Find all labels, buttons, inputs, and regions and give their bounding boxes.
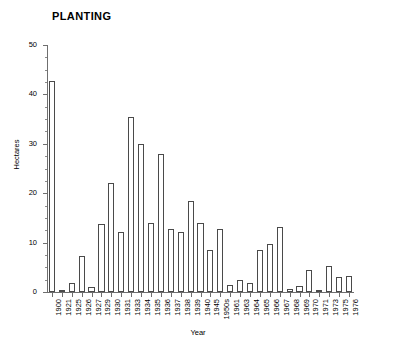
x-tick-1950s bbox=[220, 293, 221, 297]
y-minor-tick bbox=[45, 169, 47, 170]
x-tick-label-1940: 1940 bbox=[204, 299, 212, 316]
x-tick-label-1963: 1963 bbox=[243, 299, 251, 316]
x-tick-1937 bbox=[171, 293, 172, 297]
x-tick-1935 bbox=[151, 293, 152, 297]
x-tick-1970 bbox=[309, 293, 310, 297]
y-axis-label: Hectares bbox=[12, 125, 21, 185]
x-tick-label-1938: 1938 bbox=[184, 299, 192, 316]
bar-1967 bbox=[277, 227, 283, 292]
x-axis-label: Year bbox=[0, 328, 396, 337]
bar-1934 bbox=[138, 144, 144, 292]
bar-1961 bbox=[227, 285, 233, 292]
bar-1970 bbox=[306, 270, 312, 292]
bar-1938 bbox=[178, 232, 184, 292]
x-tick-1964 bbox=[250, 293, 251, 297]
bar-1930 bbox=[108, 183, 114, 292]
bar-1964 bbox=[247, 283, 253, 292]
y-minor-tick bbox=[45, 206, 47, 207]
x-tick-label-1968: 1968 bbox=[293, 299, 301, 316]
bar-1966 bbox=[267, 244, 273, 292]
x-tick-1936 bbox=[161, 293, 162, 297]
x-tick-label-1925: 1925 bbox=[75, 299, 83, 316]
x-tick-label-1964: 1964 bbox=[253, 299, 261, 316]
x-tick-label-1967: 1967 bbox=[283, 299, 291, 316]
y-tick-label-30: 30 bbox=[29, 140, 37, 148]
bar-1940 bbox=[197, 223, 203, 292]
x-tick-1976 bbox=[349, 293, 350, 297]
y-minor-tick bbox=[45, 156, 47, 157]
bar-1925 bbox=[69, 283, 75, 292]
x-tick-label-1970: 1970 bbox=[312, 299, 320, 316]
x-tick-label-1939: 1939 bbox=[194, 299, 202, 316]
y-minor-tick bbox=[45, 70, 47, 71]
bar-1971 bbox=[316, 290, 322, 292]
y-tick-0: 0 bbox=[43, 292, 47, 293]
bar-1976 bbox=[346, 276, 352, 292]
x-tick-label-1935: 1935 bbox=[154, 299, 162, 316]
bar-1975 bbox=[336, 277, 342, 292]
x-tick-1963 bbox=[240, 293, 241, 297]
y-tick-50: 50 bbox=[43, 45, 47, 46]
plot-area: 01020304050 1900192119251926192719291930… bbox=[47, 45, 354, 292]
x-tick-label-1969: 1969 bbox=[303, 299, 311, 316]
x-tick-1969 bbox=[300, 293, 301, 297]
bar-1900 bbox=[49, 81, 55, 292]
x-tick-label-1926: 1926 bbox=[85, 299, 93, 316]
x-tick-label-1966: 1966 bbox=[273, 299, 281, 316]
bar-1926 bbox=[79, 256, 85, 292]
x-tick-1925 bbox=[72, 293, 73, 297]
x-tick-label-1927: 1927 bbox=[95, 299, 103, 316]
bar-1968 bbox=[287, 289, 293, 292]
y-tick-label-0: 0 bbox=[33, 288, 37, 296]
bar-1933 bbox=[128, 117, 134, 292]
x-tick-1934 bbox=[141, 293, 142, 297]
y-minor-tick bbox=[45, 119, 47, 120]
x-tick-1929 bbox=[101, 293, 102, 297]
bar-1950s bbox=[217, 229, 223, 292]
y-tick-20: 20 bbox=[43, 193, 47, 194]
y-tick-30: 30 bbox=[43, 144, 47, 145]
x-tick-label-1937: 1937 bbox=[174, 299, 182, 316]
x-tick-label-1921: 1921 bbox=[65, 299, 73, 316]
bar-1929 bbox=[98, 224, 104, 292]
x-tick-1933 bbox=[131, 293, 132, 297]
x-tick-1940 bbox=[201, 293, 202, 297]
x-tick-label-1936: 1936 bbox=[164, 299, 172, 316]
bar-1931 bbox=[118, 232, 124, 292]
y-minor-tick bbox=[45, 218, 47, 219]
bar-1927 bbox=[88, 287, 94, 292]
x-tick-1967 bbox=[280, 293, 281, 297]
x-tick-1966 bbox=[270, 293, 271, 297]
x-tick-label-1934: 1934 bbox=[144, 299, 152, 316]
x-tick-1927 bbox=[92, 293, 93, 297]
y-tick-40: 40 bbox=[43, 94, 47, 95]
x-tick-label-1973: 1973 bbox=[332, 299, 340, 316]
x-tick-1945 bbox=[210, 293, 211, 297]
y-minor-tick bbox=[45, 107, 47, 108]
x-tick-1900 bbox=[52, 293, 53, 297]
x-tick-label-1961: 1961 bbox=[233, 299, 241, 316]
x-tick-1921 bbox=[62, 293, 63, 297]
x-tick-label-1933: 1933 bbox=[134, 299, 142, 316]
x-tick-label-1945: 1945 bbox=[213, 299, 221, 316]
bar-1963 bbox=[237, 280, 243, 292]
bar-1939 bbox=[188, 201, 194, 292]
bar-1936 bbox=[158, 154, 164, 292]
x-tick-label-1900: 1900 bbox=[55, 299, 63, 316]
y-minor-tick bbox=[45, 82, 47, 83]
y-tick-10: 10 bbox=[43, 243, 47, 244]
x-tick-1961 bbox=[230, 293, 231, 297]
bar-1945 bbox=[207, 250, 213, 292]
chart-title: PLANTING bbox=[52, 10, 111, 22]
y-minor-tick bbox=[45, 57, 47, 58]
x-tick-label-1975: 1975 bbox=[342, 299, 350, 316]
y-tick-label-50: 50 bbox=[29, 41, 37, 49]
x-tick-label-1950s: 1950s bbox=[223, 299, 231, 319]
x-tick-1939 bbox=[191, 293, 192, 297]
x-tick-1926 bbox=[82, 293, 83, 297]
x-tick-1971 bbox=[319, 293, 320, 297]
y-tick-label-10: 10 bbox=[29, 239, 37, 247]
y-minor-tick bbox=[45, 230, 47, 231]
x-tick-1968 bbox=[290, 293, 291, 297]
x-tick-1975 bbox=[339, 293, 340, 297]
